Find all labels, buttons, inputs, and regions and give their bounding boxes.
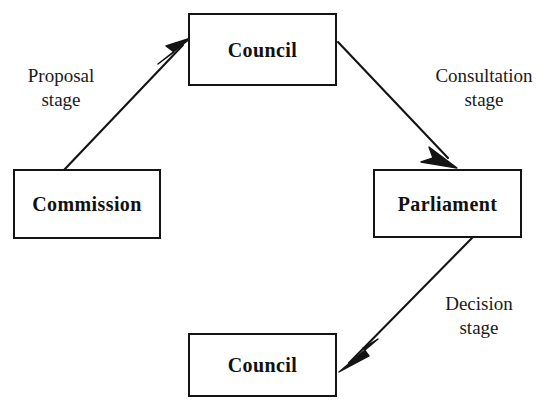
node-council-top-label: Council bbox=[228, 40, 297, 60]
edge-proposal-arrowhead bbox=[158, 38, 191, 64]
edge-label-proposal-line1: Proposal bbox=[28, 65, 95, 86]
node-council-bottom-label: Council bbox=[228, 355, 297, 375]
node-council-top[interactable]: Council bbox=[188, 13, 337, 86]
edge-label-proposal-line2: stage bbox=[8, 88, 114, 112]
flow-diagram: Council Commission Parliament Council Pr… bbox=[0, 0, 556, 415]
edge-consultation-arrowhead bbox=[421, 147, 457, 168]
node-commission-label: Commission bbox=[32, 194, 142, 214]
node-council-bottom[interactable]: Council bbox=[188, 333, 337, 397]
edge-label-proposal: Proposal stage bbox=[8, 64, 114, 113]
edge-label-consultation-line2: stage bbox=[421, 88, 547, 112]
edge-label-decision-line1: Decision bbox=[445, 293, 513, 314]
edge-label-consultation-line1: Consultation bbox=[435, 65, 532, 86]
edge-label-consultation: Consultation stage bbox=[421, 64, 547, 113]
edge-decision-arrowhead bbox=[339, 339, 378, 372]
edge-label-decision: Decision stage bbox=[424, 292, 534, 341]
node-parliament-label: Parliament bbox=[398, 194, 498, 214]
node-commission[interactable]: Commission bbox=[13, 169, 161, 239]
edge-label-decision-line2: stage bbox=[424, 316, 534, 340]
node-parliament[interactable]: Parliament bbox=[373, 169, 522, 238]
